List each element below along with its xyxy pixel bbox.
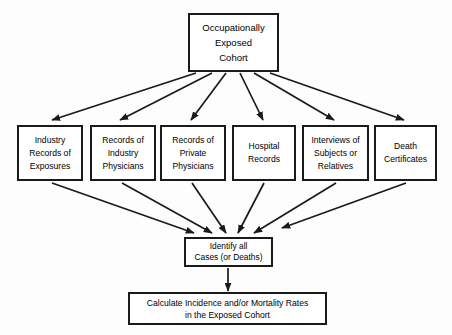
arrow-cohort-to-source-5 <box>270 73 404 120</box>
source-3-line-1: Hospital <box>248 140 279 153</box>
arrow-source-0-to-identify <box>52 183 194 233</box>
source-1-line-1: Records of <box>102 134 144 147</box>
flowchart-canvas: Occupationally Exposed Cohort Industry R… <box>0 0 452 335</box>
identify-line-2: Cases (or Deaths) <box>195 252 263 264</box>
calculate-line-1: Calculate Incidence and/or Mortality Rat… <box>147 297 308 309</box>
node-calculate-incidence-mortality-rates[interactable]: Calculate Incidence and/or Mortality Rat… <box>128 292 327 325</box>
source-1-line-3: Physicians <box>102 160 143 173</box>
cohort-line-1: Occupationally <box>202 20 264 35</box>
cohort-line-2: Exposed <box>215 35 252 50</box>
arrow-cohort-to-source-0 <box>52 73 196 120</box>
arrow-source-3-to-identify <box>238 183 264 233</box>
node-identify-all-cases[interactable]: Identify all Cases (or Deaths) <box>184 237 273 267</box>
node-death-certificates[interactable]: Death Certificates <box>374 125 437 181</box>
source-0-line-2: Records of <box>29 147 71 160</box>
node-industry-records-of-exposures[interactable]: Industry Records of Exposures <box>17 125 83 181</box>
arrow-cohort-to-source-3 <box>240 73 263 120</box>
source-5-line-2: Certificates <box>384 153 427 166</box>
source-3-line-2: Records <box>248 153 280 166</box>
calculate-line-2: in the Exposed Cohort <box>185 309 270 321</box>
arrow-source-4-to-identify <box>254 183 336 233</box>
node-records-of-industry-physicians[interactable]: Records of Industry Physicians <box>90 125 156 181</box>
cohort-line-3: Cohort <box>219 50 248 65</box>
source-2-line-2: Private <box>180 147 207 160</box>
source-0-line-3: Exposures <box>30 160 71 173</box>
arrow-cohort-to-source-4 <box>254 73 334 120</box>
source-5-line-1: Death <box>394 140 417 153</box>
node-interviews-of-subjects-or-relatives[interactable]: Interviews of Subjects or Relatives <box>302 125 369 181</box>
source-0-line-1: Industry <box>35 134 66 147</box>
node-records-of-private-physicians[interactable]: Records of Private Physicians <box>160 125 226 181</box>
sources-to-identify-arrows <box>52 183 406 233</box>
source-1-line-2: Industry <box>108 147 139 160</box>
source-2-line-3: Physicians <box>172 160 213 173</box>
identify-line-1: Identify all <box>210 241 248 253</box>
source-4-line-1: Interviews of <box>311 134 359 147</box>
source-2-line-1: Records of <box>172 134 214 147</box>
cohort-to-sources-arrows <box>52 73 404 120</box>
node-hospital-records[interactable]: Hospital Records <box>232 125 296 181</box>
node-occupationally-exposed-cohort[interactable]: Occupationally Exposed Cohort <box>188 13 279 72</box>
arrow-cohort-to-source-2 <box>191 73 226 120</box>
arrow-cohort-to-source-1 <box>120 73 212 120</box>
source-4-line-2: Subjects or <box>314 147 357 160</box>
source-4-line-3: Relatives <box>318 160 353 173</box>
arrow-source-1-to-identify <box>122 183 212 233</box>
